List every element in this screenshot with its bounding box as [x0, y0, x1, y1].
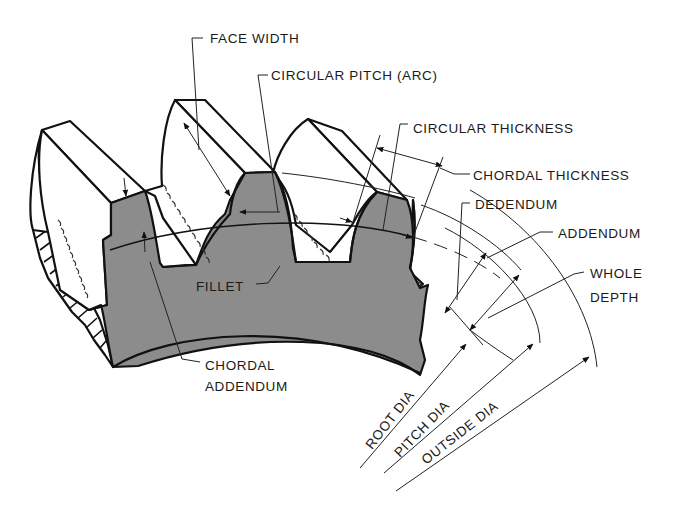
label-circular-pitch: CIRCULAR PITCH (ARC)	[271, 68, 438, 83]
label-chordal-thickness: CHORDAL THICKNESS	[473, 168, 629, 183]
label-chordal-addendum-2: ADDENDUM	[205, 379, 288, 394]
label-chordal-addendum-1: CHORDAL	[205, 358, 275, 373]
gear-body	[30, 100, 428, 375]
label-fillet: FILLET	[196, 279, 244, 294]
gear-front-face	[89, 172, 428, 375]
label-whole-depth-2: DEPTH	[590, 290, 639, 305]
label-face-width: FACE WIDTH	[210, 31, 299, 46]
label-dedendum: DEDENDUM	[475, 197, 558, 212]
label-whole-depth-1: WHOLE	[590, 266, 643, 281]
gear-tooth-diagram: FACE WIDTH CIRCULAR PITCH (ARC) CIRCULAR…	[0, 0, 681, 515]
label-circular-thickness: CIRCULAR THICKNESS	[413, 121, 574, 136]
label-addendum: ADDENDUM	[558, 226, 641, 241]
